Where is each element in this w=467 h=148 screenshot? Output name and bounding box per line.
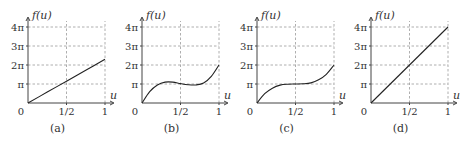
y-tick-label: π <box>17 79 24 90</box>
y-tick-label: 2π <box>125 60 138 71</box>
x-tick-label: 1/2 <box>172 106 188 117</box>
x-axis-label: u <box>224 89 231 102</box>
y-axis-label: f(u) <box>31 9 52 22</box>
y-tick-label: π <box>131 79 138 90</box>
x-tick-label: 1 <box>216 106 222 117</box>
y-tick-label: 3π <box>240 41 253 52</box>
x-tick-label: 1/2 <box>58 106 74 117</box>
y-tick-label: 3π <box>125 41 138 52</box>
x-tick-label: 0 <box>132 106 138 117</box>
x-tick-label: 1/2 <box>401 106 417 117</box>
y-tick-label: 2π <box>11 60 24 71</box>
y-axis-label: f(u) <box>145 9 166 22</box>
x-tick-label: 0 <box>18 106 24 117</box>
y-tick-label: 2π <box>240 60 253 71</box>
x-tick-label: 1/2 <box>287 106 303 117</box>
y-tick-label: 3π <box>354 41 367 52</box>
figure-four-panels: π2π3π4π01/21f(u)u(a)π2π3π4π01/21f(u)u(b)… <box>0 0 467 148</box>
panel-caption: (b) <box>164 122 180 135</box>
plot-panel-a: π2π3π4π01/21f(u)u(a) <box>11 9 117 135</box>
y-tick-label: π <box>360 79 367 90</box>
plot-panel-d: π2π3π4π01/21f(u)u(d) <box>354 9 460 135</box>
y-tick-label: 3π <box>11 41 24 52</box>
plot-panel-b: π2π3π4π01/21f(u)u(b) <box>125 9 231 135</box>
plot-panel-c: π2π3π4π01/21f(u)u(c) <box>240 9 346 135</box>
y-tick-label: 2π <box>354 60 367 71</box>
y-tick-label: 4π <box>354 22 367 33</box>
y-tick-label: 4π <box>240 22 253 33</box>
y-axis-label: f(u) <box>374 9 395 22</box>
x-tick-label: 1 <box>445 106 451 117</box>
panel-caption: (a) <box>50 122 65 135</box>
x-axis-label: u <box>453 89 460 102</box>
panel-caption: (c) <box>279 122 294 135</box>
x-axis-label: u <box>339 89 346 102</box>
x-tick-label: 0 <box>361 106 367 117</box>
y-tick-label: π <box>246 79 253 90</box>
x-tick-label: 1 <box>331 106 337 117</box>
x-tick-label: 0 <box>247 106 253 117</box>
y-tick-label: 4π <box>125 22 138 33</box>
panel-caption: (d) <box>393 122 409 135</box>
x-tick-label: 1 <box>102 106 108 117</box>
y-tick-label: 4π <box>11 22 24 33</box>
x-axis-label: u <box>110 89 117 102</box>
y-axis-label: f(u) <box>260 9 281 22</box>
